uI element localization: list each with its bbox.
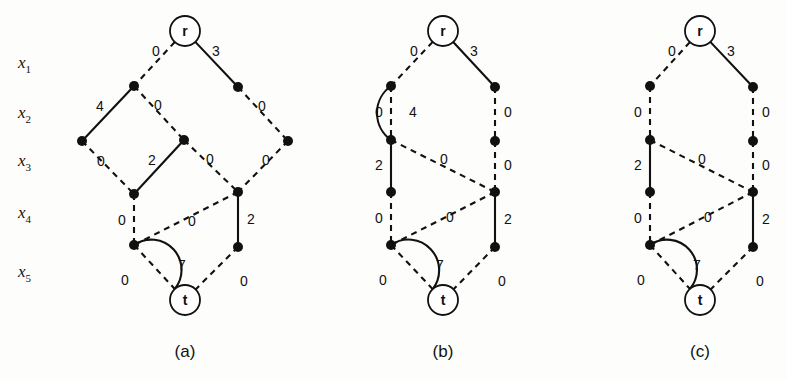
edge-n7-t — [650, 245, 690, 289]
graph-node-n7[interactable] — [233, 187, 243, 197]
edge-n4-n6 — [134, 140, 184, 194]
edge-weight-curved-n7-t: 7 — [436, 257, 444, 273]
edge-n8-t — [454, 247, 495, 289]
axis-label-group: x1x2x3x4x5 — [17, 53, 32, 284]
terminal-label-t: t — [698, 292, 703, 308]
edge-weight-n6-n7: 0 — [446, 209, 454, 225]
panel-a: 034000200002007rt(a) — [77, 16, 293, 361]
graph-canvas: x1x2x3x4x5034000200002007rt(a)0300200002… — [0, 0, 787, 381]
graph-node-n2[interactable] — [748, 82, 758, 92]
graph-node-n3[interactable] — [386, 135, 396, 145]
graph-node-n7[interactable] — [645, 240, 655, 250]
graph-node-n9[interactable] — [233, 242, 243, 252]
graph-node-n4[interactable] — [748, 136, 758, 146]
edge-n1-n4 — [134, 86, 184, 140]
graph-node-n2[interactable] — [233, 82, 243, 92]
edge-weight-n8-t: 0 — [121, 272, 129, 288]
edge-weight-n2-n5: 0 — [258, 98, 266, 114]
edge-weight-n3-n6: 0 — [440, 151, 448, 167]
edge-weight-n4-n6: 0 — [504, 157, 512, 173]
edge-weight-n6-n7: 0 — [704, 209, 712, 225]
edge-weight-n8-t: 0 — [756, 273, 764, 289]
graph-node-n1[interactable] — [386, 81, 396, 91]
edge-n3-n6 — [82, 141, 134, 194]
curved-edge-n7-t — [391, 240, 439, 290]
edge-weight-r-n1: 0 — [410, 43, 418, 59]
panel-caption-c: (c) — [690, 342, 710, 361]
edge-n2-n5 — [238, 87, 288, 141]
edge-n6-n7 — [391, 192, 495, 245]
edge-weight-n8-t: 0 — [498, 273, 506, 289]
edge-n1-n3 — [82, 86, 134, 141]
curved-edge-n7-t — [650, 240, 697, 289]
terminal-label-r: r — [182, 23, 188, 39]
edge-weight-r-n1: 0 — [668, 43, 676, 59]
graph-node-n4[interactable] — [179, 135, 189, 145]
edge-weight-n7-t: 0 — [379, 272, 387, 288]
graph-node-n1[interactable] — [129, 81, 139, 91]
edge-weight-n5-n7: 0 — [634, 210, 642, 226]
edge-weight-r-n2: 3 — [727, 43, 735, 59]
edge-n8-t — [711, 247, 753, 289]
edge-n7-t — [391, 245, 433, 289]
graph-node-n8[interactable] — [748, 242, 758, 252]
edge-n6-n7 — [650, 192, 753, 245]
axis-label-x4: x4 — [17, 203, 32, 225]
graph-node-n3[interactable] — [77, 136, 87, 146]
edge-n7-n8 — [134, 192, 238, 245]
graph-node-n4[interactable] — [490, 136, 500, 146]
edge-weight-n4-n6: 0 — [762, 157, 770, 173]
graph-node-n6[interactable] — [490, 187, 500, 197]
edge-weight-curved-n1-n3: 4 — [409, 104, 417, 120]
terminal-label-r: r — [440, 23, 446, 39]
graph-node-n5[interactable] — [645, 187, 655, 197]
graph-node-n8[interactable] — [490, 242, 500, 252]
axis-label-x1: x1 — [17, 53, 31, 75]
graph-node-n6[interactable] — [129, 189, 139, 199]
edge-weight-n4-n7: 0 — [206, 151, 214, 167]
panel-caption-b: (b) — [433, 342, 454, 361]
graph-node-n2[interactable] — [490, 82, 500, 92]
edge-weight-n4-n6: 2 — [148, 152, 156, 168]
graph-node-n5[interactable] — [283, 136, 293, 146]
edge-weight-n2-n4: 0 — [504, 104, 512, 120]
edge-weight-curved-n8-t: 7 — [178, 257, 186, 273]
edge-weight-n1-n4: 0 — [154, 97, 162, 113]
axis-label-x5: x5 — [17, 262, 32, 284]
graph-node-n6[interactable] — [748, 187, 758, 197]
edge-weight-r-n2: 3 — [470, 43, 478, 59]
edge-weight-r-n2: 3 — [212, 43, 220, 59]
edge-weight-n2-n4: 0 — [762, 104, 770, 120]
curved-edge-n8-t — [134, 240, 182, 289]
edge-n9-t — [196, 247, 238, 289]
edge-weight-n7-t: 0 — [637, 272, 645, 288]
graph-node-n7[interactable] — [386, 240, 396, 250]
edge-weight-n7-n9: 2 — [247, 211, 255, 227]
graph-node-n1[interactable] — [645, 81, 655, 91]
panel-caption-a: (a) — [175, 342, 196, 361]
edge-weight-n7-n8: 0 — [188, 213, 196, 229]
edge-weight-curved-n7-t: 7 — [693, 257, 701, 273]
edge-weight-n3-n6: 0 — [698, 151, 706, 167]
edge-weight-n3-n5: 2 — [375, 157, 383, 173]
edge-weight-n3-n6: 0 — [97, 153, 105, 169]
edge-weight-n9-t: 0 — [240, 273, 248, 289]
panel-c: 0300200002007rt(c) — [634, 16, 770, 361]
terminal-label-r: r — [697, 23, 703, 39]
edge-weight-n1-n3: 4 — [96, 98, 104, 114]
edge-weight-n6-n8: 0 — [118, 212, 126, 228]
edge-weight-n1-n3: 0 — [634, 104, 642, 120]
axis-label-x3: x3 — [17, 151, 32, 173]
edge-weight-n5-n7: 0 — [262, 152, 270, 168]
edge-n8-t — [134, 245, 175, 289]
axis-label-x2: x2 — [17, 103, 31, 125]
edge-weight-n6-n8: 2 — [504, 211, 512, 227]
edge-weight-n3-n5: 2 — [634, 157, 642, 173]
edge-weight-r-n1: 0 — [152, 43, 160, 59]
graph-node-n8[interactable] — [129, 240, 139, 250]
graph-node-n3[interactable] — [645, 135, 655, 145]
figure-container: x1x2x3x4x5034000200002007rt(a)0300200002… — [0, 0, 787, 381]
edge-weight-n6-n8: 2 — [762, 211, 770, 227]
graph-node-n5[interactable] — [386, 187, 396, 197]
edge-weight-n5-n7: 0 — [375, 210, 383, 226]
